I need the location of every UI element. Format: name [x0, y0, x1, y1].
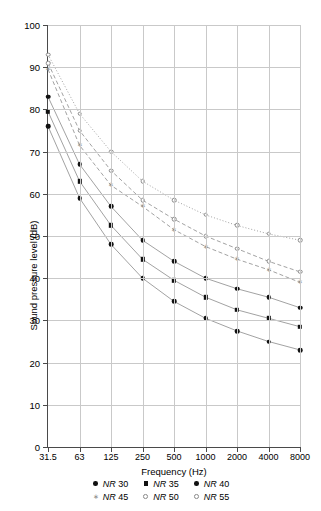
x-tick-label: 250	[135, 452, 150, 462]
gridline-vertical	[111, 25, 112, 447]
data-point-marker	[46, 94, 51, 99]
gridline-vertical	[237, 25, 238, 447]
legend-item[interactable]: NR 35	[142, 479, 179, 489]
legend-marker-icon	[193, 480, 200, 487]
data-point-marker	[46, 124, 51, 129]
y-tick-label: 100	[24, 20, 40, 31]
gridline-vertical	[269, 25, 270, 447]
x-tick-label: 500	[166, 452, 181, 462]
data-point-marker	[46, 52, 51, 57]
gridline-vertical	[174, 25, 175, 447]
x-tick-label: 1000	[195, 452, 215, 462]
legend-marker-icon	[193, 493, 200, 500]
legend-label: NR 30	[103, 479, 129, 489]
data-point-marker	[46, 61, 51, 66]
legend-marker-icon	[142, 493, 149, 500]
chart-legend: NR 30NR 35NR 40∗NR 45NR 50NR 55	[0, 477, 321, 503]
chart-figure: Sound pressure level (dB) 01020304050607…	[0, 0, 321, 511]
legend-marker-icon	[92, 480, 99, 487]
legend-label: NR 40	[204, 479, 230, 489]
legend-item[interactable]: NR 55	[193, 492, 230, 502]
x-tick-label: 31.5	[39, 452, 57, 462]
legend-marker-icon	[142, 480, 149, 487]
y-tick-label: 90	[29, 62, 40, 73]
legend-label: NR 45	[103, 492, 129, 502]
legend-item[interactable]: NR 30	[92, 479, 129, 489]
y-tick-label: 40	[29, 273, 40, 284]
y-tick-label: 20	[29, 357, 40, 368]
legend-row: NR 30NR 35NR 40	[0, 477, 321, 490]
y-tick-label: 50	[29, 231, 40, 242]
x-tick-label: 63	[74, 452, 84, 462]
y-tick-label: 80	[29, 104, 40, 115]
y-tick-label: 70	[29, 146, 40, 157]
x-tick-label: 4000	[258, 452, 278, 462]
legend-marker-icon: ∗	[92, 493, 99, 500]
gridline-vertical	[206, 25, 207, 447]
y-axis-tick-labels: 0102030405060708090100	[0, 25, 46, 447]
gridline-vertical	[300, 25, 301, 447]
legend-item[interactable]: ∗NR 45	[92, 492, 129, 502]
legend-label: NR 35	[153, 479, 179, 489]
y-tick-label: 30	[29, 315, 40, 326]
legend-row: ∗NR 45NR 50NR 55	[0, 490, 321, 503]
legend-item[interactable]: NR 50	[142, 492, 179, 502]
legend-label: NR 55	[204, 492, 230, 502]
x-axis-tick-labels: 31.5631252505001000200040008000	[48, 452, 300, 466]
legend-item[interactable]: NR 40	[193, 479, 230, 489]
gridline-vertical	[80, 25, 81, 447]
plot-area: ∗∗∗∗∗∗∗∗∗	[48, 25, 300, 447]
y-tick-label: 0	[35, 442, 40, 453]
x-tick-label: 2000	[227, 452, 247, 462]
x-tick-label: 8000	[290, 452, 310, 462]
gridline-vertical	[143, 25, 144, 447]
legend-label: NR 50	[153, 492, 179, 502]
y-tick-label: 10	[29, 399, 40, 410]
y-tick-label: 60	[29, 188, 40, 199]
x-tick-label: 125	[103, 452, 118, 462]
x-axis-title: Frequency (Hz)	[48, 466, 300, 477]
